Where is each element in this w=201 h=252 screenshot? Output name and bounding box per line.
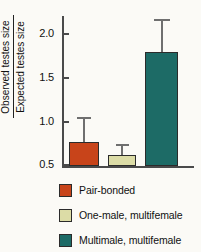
chart-legend: Pair-bondedOne-male, multifemaleMultimal…: [0, 176, 201, 252]
plot-area: Observed testes size Expected testes siz…: [0, 0, 201, 176]
y-tick-label: 2.0: [39, 28, 54, 39]
y-tick-label: 1.5: [39, 72, 54, 83]
testes-size-bar-chart: Observed testes size Expected testes siz…: [0, 0, 201, 252]
legend-item-2[interactable]: One-male, multifemale: [59, 208, 183, 222]
error-bar-stem-1: [83, 117, 85, 142]
y-axis-label: Observed testes size Expected testes siz…: [0, 7, 28, 127]
y-tick-label: 1.0: [39, 116, 54, 127]
legend-swatch-2: [59, 209, 72, 222]
error-bar-cap-1: [77, 117, 91, 119]
error-bar-stem-3: [161, 19, 163, 52]
y-tick-0-5: 0.5: [0, 159, 62, 170]
y-tick-label: 0.5: [39, 159, 54, 170]
x-axis-spine: [62, 166, 194, 168]
bar-2: [108, 155, 136, 166]
y-tick-1-0: 1.0: [0, 116, 62, 127]
legend-item-1[interactable]: Pair-bonded: [59, 183, 135, 197]
y-axis-spine: [62, 16, 64, 167]
bar-1: [69, 142, 99, 166]
y-tick-mark: [64, 33, 69, 35]
legend-label-1: Pair-bonded: [79, 184, 135, 196]
legend-label-3: Multimale, multifemale: [79, 234, 181, 246]
y-tick-1-5: 1.5: [0, 72, 62, 83]
y-tick-mark: [64, 77, 69, 79]
y-tick-2-0: 2.0: [0, 28, 62, 39]
bar-3: [145, 52, 178, 166]
legend-swatch-3: [59, 234, 72, 247]
legend-item-3[interactable]: Multimale, multifemale: [59, 233, 181, 247]
error-bar-cap-2: [116, 144, 129, 146]
legend-label-2: One-male, multifemale: [79, 209, 183, 221]
error-bar-cap-3: [154, 19, 170, 21]
y-tick-mark: [64, 121, 69, 123]
legend-swatch-1: [59, 184, 72, 197]
